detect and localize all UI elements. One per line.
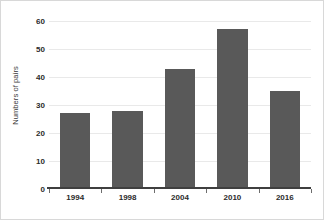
y-axis-tick-label: 40: [36, 73, 45, 82]
x-axis-category-label: 1998: [101, 193, 153, 202]
bar[interactable]: [165, 69, 195, 189]
x-axis-category-label: 2010: [206, 193, 258, 202]
bar[interactable]: [270, 91, 300, 189]
x-axis-category-label: 2004: [154, 193, 206, 202]
bar-chart-figure: Numbers of pairs 0102030405060 199419982…: [0, 0, 324, 220]
y-axis-tick-label: 50: [36, 45, 45, 54]
y-axis-title-text: Numbers of pairs: [11, 66, 20, 125]
bar-slot: [259, 21, 311, 189]
bar-slot: [101, 21, 153, 189]
y-axis-tick-labels: 0102030405060: [23, 21, 45, 189]
y-axis-tick-label: 60: [36, 17, 45, 26]
bar[interactable]: [112, 111, 142, 189]
y-axis-tick-label: 10: [36, 157, 45, 166]
x-axis-category-label: 2016: [259, 193, 311, 202]
bar[interactable]: [217, 29, 247, 189]
bar-slot: [49, 21, 101, 189]
y-axis-tick-label: 30: [36, 101, 45, 110]
x-axis-line: [47, 187, 311, 189]
y-axis-tick-label: 20: [36, 129, 45, 138]
x-axis-category-labels: 19941998200420102016: [49, 193, 311, 202]
plot-area: [49, 21, 311, 189]
bar-series: [49, 21, 311, 189]
x-axis-category-label: 1994: [49, 193, 101, 202]
x-axis-tick: [311, 189, 312, 193]
bar-slot: [206, 21, 258, 189]
bar-slot: [154, 21, 206, 189]
bar[interactable]: [60, 113, 90, 189]
y-axis-tick-label: 0: [41, 185, 45, 194]
y-axis-title: Numbers of pairs: [7, 1, 23, 189]
